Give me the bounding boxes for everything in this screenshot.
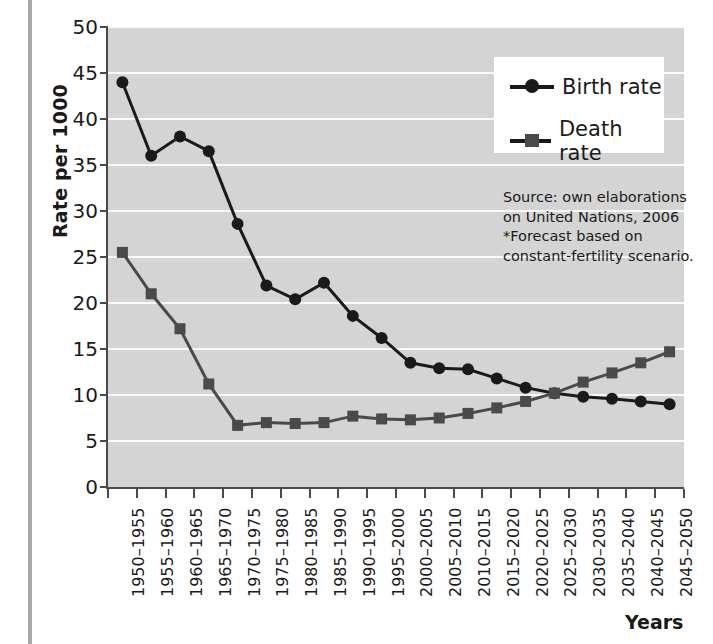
x-axis-tick xyxy=(453,489,455,498)
x-axis-tick-label: 2045–2050 xyxy=(677,508,696,597)
data-point-marker xyxy=(404,357,416,369)
x-axis-tick-label: 1960–1965 xyxy=(187,508,206,597)
y-axis-tick-label: 20 xyxy=(38,291,98,315)
x-axis-tick xyxy=(136,489,138,498)
x-axis-tick xyxy=(424,489,426,498)
x-axis-tick-label: 1980–1985 xyxy=(302,508,321,597)
x-axis-tick-label: 1995–2000 xyxy=(389,508,408,597)
square-marker-icon xyxy=(525,134,539,147)
data-point-marker xyxy=(145,150,157,162)
legend-line-birth-rate xyxy=(510,85,554,89)
data-point-marker xyxy=(606,393,618,405)
data-point-marker xyxy=(433,362,445,374)
y-axis-tick-label: 35 xyxy=(38,153,98,177)
data-point-marker xyxy=(664,398,676,410)
data-point-marker xyxy=(520,396,531,407)
left-vertical-rule xyxy=(28,0,32,644)
data-point-marker xyxy=(203,378,214,389)
data-point-marker xyxy=(232,420,243,431)
data-point-marker xyxy=(664,346,675,357)
x-axis-tick-label: 1970–1975 xyxy=(245,508,264,597)
data-point-marker xyxy=(347,310,359,322)
x-axis-tick xyxy=(654,489,656,498)
y-axis-tick xyxy=(100,440,108,442)
x-axis-tick xyxy=(337,489,339,498)
data-point-marker xyxy=(577,391,589,403)
x-axis-tick xyxy=(366,489,368,498)
legend-item-birth-rate: Birth rate xyxy=(510,75,662,99)
x-axis-tick-label: 2030–2035 xyxy=(590,508,609,597)
x-axis-tick-label: 1950–1955 xyxy=(129,508,148,597)
legend-item-death-rate: Death rate xyxy=(510,117,664,165)
data-point-marker xyxy=(116,76,128,88)
y-axis-tick xyxy=(100,72,108,74)
source-annotation: Source: own elaborations on United Natio… xyxy=(503,188,703,266)
x-axis-tick-label: 2035–2040 xyxy=(619,508,638,597)
data-point-marker xyxy=(347,411,358,422)
data-point-marker xyxy=(462,363,474,375)
data-point-marker xyxy=(578,377,589,388)
y-axis-tick-label: 10 xyxy=(38,383,98,407)
y-axis-tick xyxy=(100,302,108,304)
y-axis-tick-label: 5 xyxy=(38,429,98,453)
x-axis-tick-label: 2000–2005 xyxy=(417,508,436,597)
x-axis-tick-label: 1955–1960 xyxy=(158,508,177,597)
x-axis-tick xyxy=(597,489,599,498)
data-point-marker xyxy=(520,382,532,394)
x-axis-tick xyxy=(510,489,512,498)
x-axis-tick xyxy=(683,489,685,498)
x-axis-tick-label: 2015–2020 xyxy=(504,508,523,597)
y-axis-tick-label: 50 xyxy=(38,15,98,39)
data-point-marker xyxy=(376,332,388,344)
x-axis-tick xyxy=(280,489,282,498)
x-axis-tick xyxy=(395,489,397,498)
data-point-marker xyxy=(491,372,503,384)
source-line-4: constant-fertility scenario. xyxy=(503,247,703,267)
data-point-marker xyxy=(260,280,272,292)
y-axis-tick-label: 15 xyxy=(38,337,98,361)
data-point-marker xyxy=(289,293,301,305)
x-axis-tick xyxy=(107,489,109,498)
data-point-marker xyxy=(376,413,387,424)
x-axis-tick xyxy=(568,489,570,498)
y-axis-tick-label: 40 xyxy=(38,107,98,131)
x-axis-tick xyxy=(481,489,483,498)
y-axis-tick-label: 25 xyxy=(38,245,98,269)
data-point-marker xyxy=(203,145,215,157)
data-point-marker xyxy=(175,323,186,334)
legend-label-death-rate: Death rate xyxy=(559,117,664,165)
x-axis-tick-label: 2010–2015 xyxy=(475,508,494,597)
x-axis-tick xyxy=(165,489,167,498)
x-axis-tick-label: 2005–2010 xyxy=(446,508,465,597)
y-axis-tick xyxy=(100,26,108,28)
data-point-marker xyxy=(405,414,416,425)
x-axis-tick xyxy=(222,489,224,498)
y-axis-tick xyxy=(100,486,108,488)
x-axis-tick xyxy=(251,489,253,498)
source-line-2: on United Nations, 2006 xyxy=(503,208,703,228)
x-axis-tick xyxy=(309,489,311,498)
x-axis-title: Years xyxy=(625,611,683,633)
legend-label-birth-rate: Birth rate xyxy=(562,75,662,99)
x-axis-tick xyxy=(625,489,627,498)
x-axis-tick-label: 1985–1990 xyxy=(331,508,350,597)
data-point-marker xyxy=(549,388,560,399)
data-point-marker xyxy=(174,130,186,142)
data-point-marker xyxy=(117,247,128,258)
data-point-marker xyxy=(290,418,301,429)
data-point-marker xyxy=(463,408,474,419)
y-axis-tick-label: 30 xyxy=(38,199,98,223)
x-axis-tick-label: 2025–2030 xyxy=(561,508,580,597)
y-axis-tick xyxy=(100,348,108,350)
data-point-marker xyxy=(318,277,330,289)
x-axis-tick-label: 1975–1980 xyxy=(273,508,292,597)
x-axis-tick-label: 2040–2045 xyxy=(648,508,667,597)
y-axis-tick xyxy=(100,256,108,258)
y-axis-tick xyxy=(100,394,108,396)
y-axis-tick-label: 0 xyxy=(38,475,98,499)
source-line-1: Source: own elaborations xyxy=(503,188,703,208)
x-axis-tick-label: 1965–1970 xyxy=(216,508,235,597)
data-point-marker xyxy=(261,417,272,428)
legend-line-death-rate xyxy=(510,139,551,143)
x-axis-tick xyxy=(539,489,541,498)
